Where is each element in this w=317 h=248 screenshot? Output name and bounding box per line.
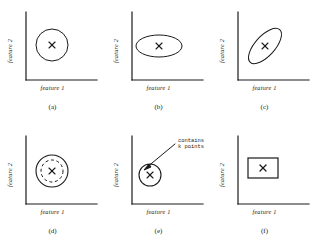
x-axis-label: feature 1 [106,208,211,215]
y-axis-label: feature 2 [218,28,225,74]
center-marker-icon [147,172,153,178]
annotation-contains-k-points: contains k points [178,138,204,151]
center-marker-icon [156,43,162,49]
panel-e: contains k points feature 1 feature 2 (e… [106,124,211,248]
x-axis-label: feature 1 [0,84,105,91]
y-axis-label: feature 2 [218,152,225,198]
y-axis-label: feature 2 [6,28,13,74]
panel-c: feature 1 feature 2 (c) [212,0,317,124]
panel-caption-c: (c) [212,103,317,111]
panel-b: feature 1 feature 2 (b) [106,0,211,124]
panel-d: feature 1 feature 2 (d) [0,124,105,248]
annotation-arrow-icon [144,144,175,170]
panel-caption-b: (b) [106,103,211,111]
center-marker-icon [262,43,268,49]
panel-a: feature 1 feature 2 (a) [0,0,105,124]
panel-caption-a: (a) [0,103,105,111]
panel-f: feature 1 feature 2 (f) [212,124,317,248]
x-axis-label: feature 1 [212,208,317,215]
panel-caption-f: (f) [212,227,317,235]
panel-caption-e: (e) [106,227,211,235]
center-marker-icon [49,42,55,48]
annotation-line-2: k points [178,144,204,150]
panel-caption-d: (d) [0,227,105,235]
y-axis-label: feature 2 [112,28,119,74]
center-marker-icon [260,165,266,171]
y-axis-label: feature 2 [112,152,119,198]
x-axis-label: feature 1 [0,208,105,215]
cluster-shapes-figure: feature 1 feature 2 (a) feature 1 featur… [0,0,317,248]
x-axis-label: feature 1 [106,84,211,91]
y-axis-label: feature 2 [6,152,13,198]
x-axis-label: feature 1 [212,84,317,91]
center-marker-icon [49,168,55,174]
